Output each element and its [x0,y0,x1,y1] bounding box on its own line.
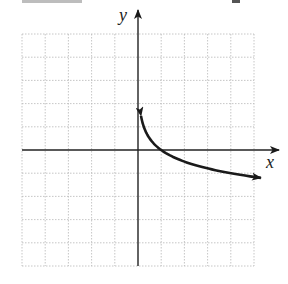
graph-plot: x y [0,0,288,284]
function-curve [141,116,261,178]
x-axis-label: x [265,152,274,172]
y-axis-label: y [117,5,127,25]
